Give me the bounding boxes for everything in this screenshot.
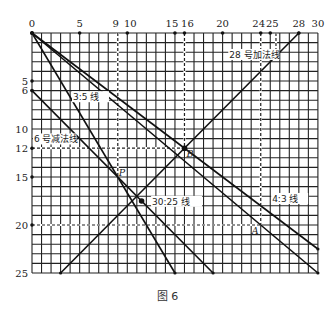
- tick-dot: [78, 31, 82, 35]
- top-tick-label: 30: [312, 18, 325, 29]
- point-intersection-dot: [139, 198, 145, 204]
- tick-dot: [30, 175, 34, 179]
- line-30-25-label: 30:25 线: [152, 196, 190, 207]
- line-3-5: [32, 33, 175, 273]
- left-tick-label: 15: [15, 172, 28, 183]
- left-tick-label: 10: [15, 124, 28, 135]
- grid-diagram: 0591015162024252830561012152025 4:3 线30:…: [0, 0, 335, 316]
- left-tick-label: 12: [15, 143, 28, 154]
- line-6-subtract-label: 6 号减法线: [34, 133, 79, 144]
- origin-dot: [30, 31, 34, 35]
- tick-dot: [30, 79, 34, 83]
- line-28-add-label: 28 号加法线: [229, 49, 279, 60]
- endpoint-dot: [316, 271, 319, 274]
- endpoint-dot: [211, 271, 214, 274]
- tick-dot: [259, 31, 263, 35]
- tick-dot: [183, 31, 187, 35]
- tick-dot: [30, 223, 34, 227]
- top-tick-label: 0: [29, 18, 35, 29]
- line-4-3-label: 4:3 线: [272, 193, 298, 204]
- tick-dot: [30, 146, 34, 150]
- points: PBA: [118, 145, 259, 236]
- tick-dot: [297, 31, 301, 35]
- left-tick-label: 25: [15, 268, 28, 279]
- endpoint-dot: [173, 271, 176, 274]
- endpoint-dot: [59, 271, 62, 274]
- endpoint-dot: [316, 247, 319, 250]
- point-A-label: A: [251, 225, 259, 236]
- top-tick-label: 25: [266, 18, 279, 29]
- left-tick-label: 20: [15, 220, 28, 231]
- line-28-add: [61, 33, 299, 273]
- top-tick-label: 5: [76, 18, 82, 29]
- tick-dot: [30, 89, 34, 93]
- point-B-label: B: [185, 148, 193, 159]
- top-tick-label: 16: [181, 18, 194, 29]
- tick-dot: [268, 31, 272, 35]
- top-tick-label: 20: [216, 18, 229, 29]
- top-tick-label: 15: [166, 18, 179, 29]
- line-3-5-label: 3:5 线: [73, 91, 99, 102]
- top-tick-label: 9: [113, 18, 119, 29]
- tick-dot: [173, 31, 177, 35]
- top-tick-label: 24: [252, 18, 265, 29]
- tick-dot: [126, 31, 130, 35]
- line-6-subtract: [32, 91, 213, 273]
- point-P-label: P: [118, 167, 126, 178]
- top-tick-label: 10: [124, 18, 137, 29]
- line-labels: 4:3 线30:25 线3:5 线6 号减法线28 号加法线: [33, 49, 308, 207]
- figure-caption: 图 6: [0, 287, 335, 303]
- tick-dot: [221, 31, 225, 35]
- top-tick-label: 28: [292, 18, 305, 29]
- left-tick-label: 6: [22, 85, 28, 96]
